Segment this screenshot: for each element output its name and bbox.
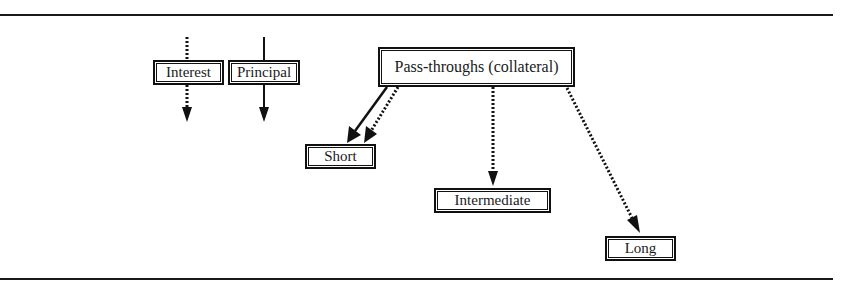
interest-legend-box: Interest bbox=[153, 60, 224, 85]
passthroughs-collateral-node: Pass-throughs (collateral) bbox=[378, 47, 575, 87]
arrow-passthroughs-to-long-icon bbox=[567, 88, 640, 233]
short-label: Short bbox=[324, 148, 357, 165]
arrow-passthroughs-to-intermediate-icon bbox=[488, 87, 498, 186]
long-label: Long bbox=[625, 240, 657, 257]
long-tranche-node: Long bbox=[605, 236, 676, 261]
arrows-layer bbox=[0, 0, 855, 288]
principal-legend-box: Principal bbox=[228, 60, 300, 85]
intermediate-label: Intermediate bbox=[455, 192, 531, 209]
passthroughs-label: Pass-throughs (collateral) bbox=[395, 58, 559, 76]
principal-label: Principal bbox=[237, 64, 291, 81]
short-tranche-node: Short bbox=[305, 144, 376, 169]
intermediate-tranche-node: Intermediate bbox=[434, 188, 551, 213]
interest-label: Interest bbox=[166, 64, 211, 81]
